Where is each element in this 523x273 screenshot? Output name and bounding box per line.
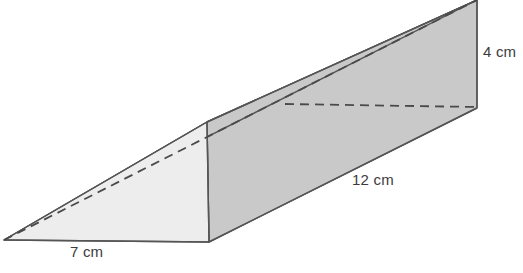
prism-drawing — [0, 0, 523, 273]
dimension-label-height: 4 cm — [483, 43, 516, 60]
dimension-label-base: 7 cm — [70, 243, 103, 260]
side-face — [207, 0, 477, 242]
dimension-label-length: 12 cm — [352, 171, 394, 188]
geometry-figure: 7 cm 12 cm 4 cm — [0, 0, 523, 273]
